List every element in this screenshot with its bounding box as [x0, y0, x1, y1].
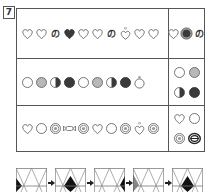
- heart-dark-icon: [63, 27, 76, 40]
- heart-icon: [133, 27, 146, 40]
- svg-text:の: の: [195, 29, 204, 39]
- no-icon: の: [105, 27, 118, 40]
- sequence-2: [17, 59, 169, 105]
- arrow-right-icon: [164, 168, 172, 192]
- triangle-panels: [16, 168, 206, 192]
- circle-icon: [21, 76, 34, 89]
- triangle-grid-panel: [16, 168, 47, 192]
- circle-gray-icon: [35, 76, 48, 89]
- circle-dark-icon: [188, 86, 201, 99]
- arrow-right-icon: [86, 168, 94, 192]
- circle-half-icon: [173, 86, 186, 99]
- circle-icon: [35, 122, 48, 135]
- heart-icon: [91, 122, 104, 135]
- puzzle-table: のの の: [16, 8, 205, 152]
- answer-options: [172, 62, 202, 102]
- circle-icon: [173, 66, 186, 79]
- sequence-1: のの: [17, 9, 169, 58]
- spiral-icon: [173, 132, 186, 145]
- circle-gray-icon: [188, 66, 201, 79]
- no-icon: の: [49, 27, 62, 40]
- heart-icon: [147, 27, 160, 40]
- answer-cell-2[interactable]: [169, 59, 204, 105]
- heart-dot-icon: [133, 122, 146, 135]
- svg-text:の: の: [107, 29, 116, 39]
- circle-icon: [188, 112, 201, 125]
- puzzle-row-1: のの の: [17, 9, 204, 59]
- triangle-grid-panel: [94, 168, 125, 192]
- circle-gray-icon: [91, 76, 104, 89]
- puzzle-row-2: [17, 59, 204, 106]
- sequence-3: [17, 106, 169, 151]
- heart-icon: [77, 27, 90, 40]
- circle-dark-icon: [63, 76, 76, 89]
- triangle-grid-panel: [133, 168, 164, 192]
- heart-icon: [91, 27, 104, 40]
- answer-options: [172, 109, 202, 148]
- circle-dark-icon: [119, 76, 132, 89]
- circle-icon: [105, 122, 118, 135]
- spiral-icon: [77, 122, 90, 135]
- svg-text:の: の: [51, 29, 60, 39]
- heart-icon: [167, 27, 180, 40]
- arrow-right-icon: [47, 168, 55, 192]
- spiral-bold-icon: [188, 132, 201, 145]
- circle-half-icon: [105, 76, 118, 89]
- spiral-icon: [49, 122, 62, 135]
- circle-dark-ring-icon: [180, 27, 193, 40]
- circle-icon: [77, 76, 90, 89]
- heart-dot-icon: [119, 27, 132, 40]
- puzzle-row-3: [17, 106, 204, 151]
- circle-dot-icon: [133, 76, 146, 89]
- heart-icon: [35, 27, 48, 40]
- answer-options: の: [171, 9, 202, 58]
- no-icon: の: [193, 27, 206, 40]
- spiral-icon: [147, 122, 160, 135]
- heart-icon: [21, 122, 34, 135]
- triangle-grid-panel: [172, 168, 203, 192]
- circle-half-icon: [49, 76, 62, 89]
- answer-cell-3[interactable]: [169, 106, 204, 151]
- arrow-right-icon: [125, 168, 133, 192]
- candy-icon: [63, 122, 76, 135]
- question-number: 7: [3, 6, 15, 19]
- heart-icon: [21, 27, 34, 40]
- answer-cell-1[interactable]: の: [169, 9, 204, 58]
- triangle-grid-panel: [55, 168, 86, 192]
- spiral-icon: [119, 122, 132, 135]
- heart-icon: [173, 112, 186, 125]
